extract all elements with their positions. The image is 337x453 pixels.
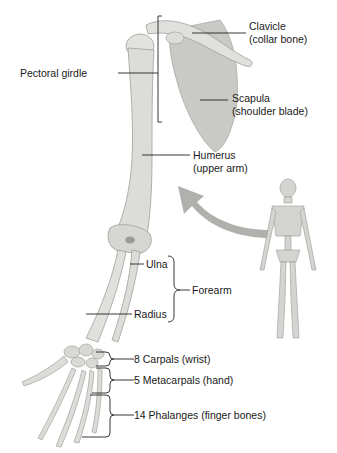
- radius-label: Radius: [134, 308, 167, 320]
- metacarpals-bracket: [92, 368, 114, 393]
- phalanges-label: 14 Phalanges (finger bones): [134, 409, 266, 421]
- clavicle-label: Clavicle: [249, 20, 286, 32]
- forearm-bracket: [168, 256, 180, 322]
- humerus-label: Humerus: [193, 149, 236, 161]
- scapula-sublabel: (shoulder blade): [232, 105, 308, 117]
- ulna-label: Ulna: [146, 258, 168, 270]
- carpals-shape: [64, 344, 104, 368]
- arrow-shape: [178, 186, 270, 238]
- scapula-label: Scapula: [232, 92, 270, 104]
- forearm-label: Forearm: [192, 284, 232, 296]
- humerus-sublabel: (upper arm): [193, 162, 248, 174]
- fingers-shape: [38, 368, 102, 447]
- humerus-shape: [116, 48, 154, 242]
- upper-limb-diagram: Clavicle (collar bone) Pectoral girdle S…: [0, 0, 337, 453]
- metacarpals-label: 5 Metacarpals (hand): [134, 374, 233, 386]
- clavicle-sublabel: (collar bone): [249, 33, 307, 45]
- pectoral-girdle-label: Pectoral girdle: [20, 67, 87, 79]
- carpals-label: 8 Carpals (wrist): [134, 353, 210, 365]
- full-skeleton: [260, 179, 316, 338]
